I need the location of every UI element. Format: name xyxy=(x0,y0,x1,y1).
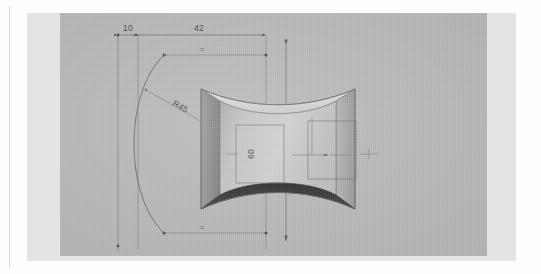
dim-label-60: 60 xyxy=(246,149,256,159)
cad-viewport[interactable]: 10 42 = = xyxy=(60,13,487,256)
origin-node-top[interactable] xyxy=(117,34,120,37)
radius-label-R45: R45 xyxy=(171,98,190,115)
constraint-line-top[interactable]: = xyxy=(163,46,268,57)
dim-label-42: 42 xyxy=(194,23,204,33)
equal-mark-top: = xyxy=(200,46,204,53)
radius-arc-R45[interactable] xyxy=(134,55,164,233)
dimension-42[interactable]: 42 xyxy=(140,23,266,35)
dim-label-10: 10 xyxy=(123,23,133,33)
dimension-10[interactable]: 10 xyxy=(118,23,138,35)
sketch-node-top-right[interactable] xyxy=(265,54,268,57)
sketch-node-bottom-right[interactable] xyxy=(265,232,268,235)
screenshot-root: 10 42 = = xyxy=(0,0,541,274)
solid-right-face xyxy=(336,89,355,209)
constraint-line-bottom[interactable]: = xyxy=(163,224,268,235)
solid-left-face xyxy=(201,89,220,209)
page-left-rule xyxy=(9,6,10,268)
origin-node-bottom[interactable] xyxy=(117,245,120,248)
equal-mark-bottom: = xyxy=(200,224,204,231)
solid-front-face xyxy=(220,101,336,195)
solid-barrel-extrusion[interactable] xyxy=(201,89,355,209)
drawing-canvas[interactable]: 10 42 = = xyxy=(60,13,487,256)
